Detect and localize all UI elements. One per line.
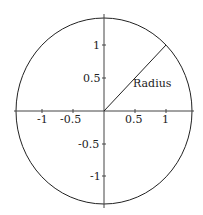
circle-plot: -1 -0.5 0.5 1 1 0.5 -0.5 -1 Radius	[0, 0, 203, 215]
x-tick-label: 0.5	[125, 113, 143, 126]
x-tick-label: -1	[37, 113, 48, 126]
y-tick-label: -1	[90, 170, 101, 183]
y-tick-label: -0.5	[78, 138, 99, 151]
x-tick-label: 1	[162, 113, 169, 126]
y-tick-label: 0.5	[83, 72, 101, 85]
y-tick-label: 1	[93, 39, 100, 52]
radius-annotation: Radius	[133, 77, 172, 90]
x-tick-label: -0.5	[60, 113, 81, 126]
plot-canvas: -1 -0.5 0.5 1 1 0.5 -0.5 -1 Radius	[0, 0, 203, 215]
